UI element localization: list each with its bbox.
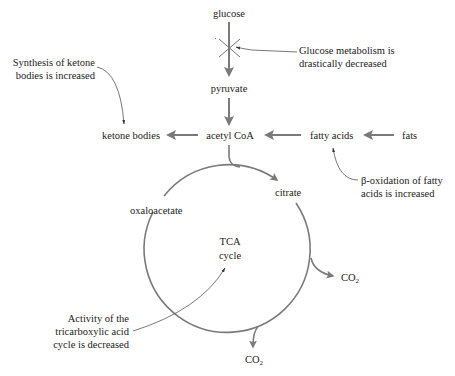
citrate-label: citrate bbox=[275, 186, 301, 199]
co2-bottom-arrow bbox=[253, 327, 258, 347]
tca-annotation-line2: tricarboxylic acid bbox=[30, 325, 129, 338]
beta-oxidation-annotation: β-oxidation of fatty acids is increased bbox=[361, 174, 443, 200]
glucose-label: glucose bbox=[204, 7, 254, 20]
tca-label-line1: TCA bbox=[210, 235, 250, 248]
ketone-annotation: Synthesis of ketone bodies is increased bbox=[2, 56, 95, 82]
glucose-annotation: Glucose metabolism is drastically decrea… bbox=[299, 44, 395, 70]
co2-right-label: CO2 bbox=[341, 271, 359, 284]
co2-right-text: CO bbox=[341, 272, 356, 283]
blocked-cross-icon bbox=[215, 38, 240, 57]
co2-bottom-label: CO2 bbox=[245, 353, 263, 366]
pyruvate-label: pyruvate bbox=[204, 82, 254, 95]
ketone-annotation-line1: Synthesis of ketone bbox=[2, 56, 95, 69]
ketone-note-pointer bbox=[97, 67, 124, 124]
fats-label: fats bbox=[402, 129, 417, 142]
tca-annotation: Activity of the tricarboxylic acid cycle… bbox=[30, 312, 129, 351]
tca-annotation-line1: Activity of the bbox=[30, 312, 129, 325]
beta-annotation-line1: β-oxidation of fatty bbox=[361, 174, 443, 187]
co2-right-subscript: 2 bbox=[356, 277, 360, 285]
acetylcoa-to-cycle-line bbox=[229, 145, 240, 167]
beta-oxidation-note-pointer bbox=[333, 148, 358, 180]
acetyl-coa-label: acetyl CoA bbox=[201, 129, 259, 142]
glucose-annotation-line1: Glucose metabolism is bbox=[299, 44, 395, 57]
fatty-acids-label: fatty acids bbox=[310, 129, 353, 142]
glucose-annotation-line2: drastically decreased bbox=[299, 57, 395, 70]
glucose-note-pointer bbox=[236, 47, 297, 52]
co2-right-arrow bbox=[311, 258, 333, 276]
co2-bottom-subscript: 2 bbox=[260, 359, 264, 367]
beta-annotation-line2: acids is increased bbox=[361, 187, 443, 200]
oxaloacetate-label: oxaloacetate bbox=[130, 204, 182, 217]
ketone-annotation-line2: bodies is increased bbox=[2, 69, 95, 82]
tca-annotation-line3: cycle is decreased bbox=[30, 338, 129, 351]
co2-bottom-text: CO bbox=[245, 354, 260, 365]
tca-note-pointer bbox=[133, 268, 225, 331]
ketone-metabolism-diagram: glucose pyruvate acetyl CoA ketone bodie… bbox=[0, 0, 455, 376]
ketone-bodies-label: ketone bodies bbox=[102, 129, 160, 142]
tca-label-line2: cycle bbox=[210, 249, 250, 262]
